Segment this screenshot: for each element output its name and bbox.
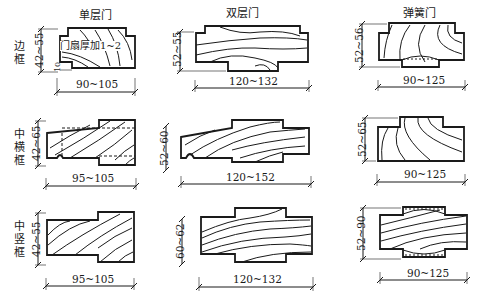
width-dim-single-side: 90~105 — [76, 79, 118, 90]
height-dim-spring-rail: 52~65 — [357, 121, 368, 157]
height-dim-double-side: 52~55 — [172, 31, 183, 67]
row-label-middle-mullion: 中竖框 — [13, 220, 24, 259]
height-dim-single-rail: 42~65 — [31, 125, 42, 161]
height-dim-double-rail: 52~60 — [159, 130, 170, 166]
width-dim-spring-mullion: 90~125 — [407, 268, 449, 279]
height-dim-spring-mullion: 52~90 — [356, 215, 367, 251]
width-dim-spring-side: 90~125 — [403, 75, 445, 86]
width-dim-single-rail: 95~105 — [72, 173, 114, 184]
note-door-leaf-thickness: 门扇厚加1~2 — [60, 41, 121, 51]
height-dim-double-mullion: 60~62 — [175, 223, 186, 259]
small-dim-10: 10 — [54, 62, 62, 72]
height-dim-spring-side: 52~56 — [354, 27, 365, 63]
height-dim-single-side: 42~55 — [34, 32, 45, 68]
column-title-single-door: 单层门 — [79, 10, 112, 21]
width-dim-single-mullion: 95~105 — [72, 274, 114, 285]
height-dim-single-mullion: 42~55 — [31, 221, 42, 257]
column-title-double-door: 双层门 — [226, 8, 259, 19]
width-dim-double-rail: 120~152 — [226, 172, 275, 183]
row-label-middle-rail: 中横框 — [13, 128, 24, 167]
row-label-side-frame: 边框 — [13, 40, 24, 66]
width-dim-spring-rail: 90~125 — [404, 169, 446, 180]
width-dim-double-mullion: 120~132 — [233, 274, 282, 285]
column-title-spring-door: 弹簧门 — [403, 8, 436, 19]
width-dim-double-side: 120~132 — [229, 76, 278, 87]
